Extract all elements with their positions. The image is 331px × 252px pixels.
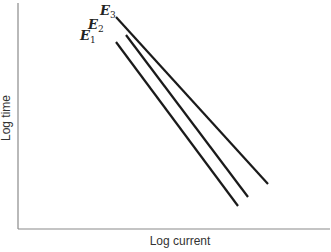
x-axis-label: Log current [150,234,211,248]
series-label-e3-sub: 3 [110,10,116,20]
series-line-e1 [116,42,238,206]
series-label-e1-sub: 1 [90,35,96,45]
series-label-e3: E3 [99,3,116,20]
series-line-e3 [116,17,268,184]
log-time-vs-log-current-chart: E1 E2 E3 Log current Log time [0,0,331,252]
y-axis-label: Log time [0,95,13,141]
series-label-e2: E2 [87,17,104,34]
series-label-e2-sub: 2 [98,24,104,34]
series-line-e2 [126,35,248,197]
